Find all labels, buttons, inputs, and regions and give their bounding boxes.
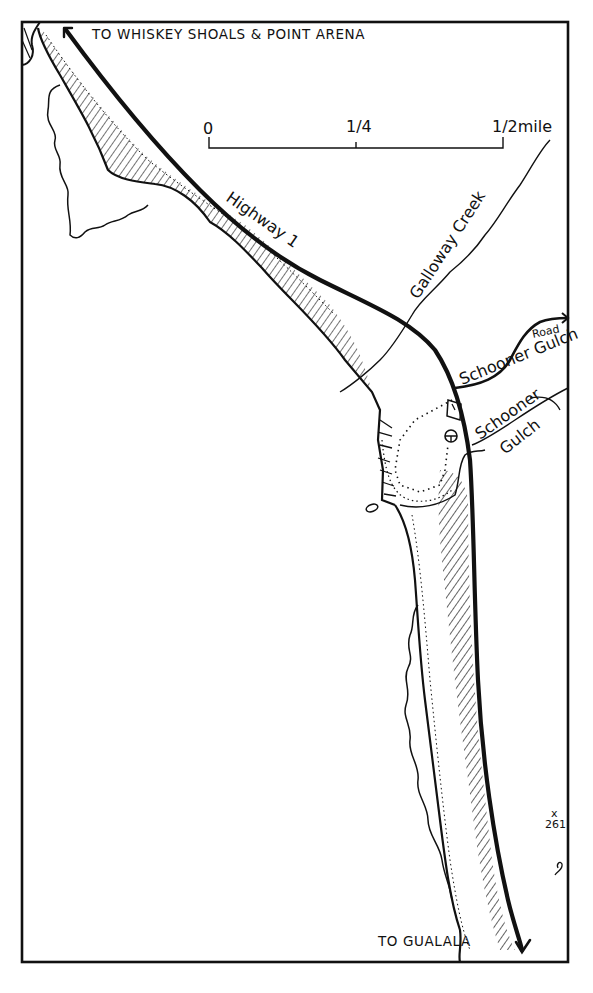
rock [365, 503, 379, 514]
north-destination-label: TO WHISKEY SHOALS & POINT ARENA [91, 26, 365, 42]
circle-cross-icon [445, 430, 457, 442]
scale-tick-half: 1/2mile [492, 117, 552, 136]
hand-drawn-map: 0 1/4 1/2mile TO WHISKEY SHOALS & POINT … [0, 0, 593, 993]
road-label-line1: Schooner Gulch [456, 324, 580, 389]
creek-label: Galloway Creek [405, 187, 489, 303]
bluff-hatching-north [38, 28, 372, 392]
elevation-value: 261 [545, 818, 566, 831]
scale-tick-quarter: 1/4 [346, 117, 372, 136]
south-destination-label: TO GUALALA [377, 933, 471, 949]
scale-bar: 0 1/4 1/2mile [203, 117, 552, 148]
rock-marker [555, 862, 562, 875]
scale-tick-0: 0 [203, 119, 213, 138]
